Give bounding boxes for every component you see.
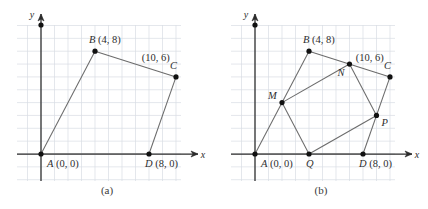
vertex-label-C: C <box>384 60 392 71</box>
vertex-label-B: B (4, 8) <box>89 34 121 46</box>
vertex-label-A: A (0, 0) <box>260 158 293 170</box>
vertex-point-M <box>279 100 284 105</box>
y-axis-marker-dot <box>252 22 257 27</box>
vertex-point-A <box>252 151 257 156</box>
vertex-point-B <box>306 49 311 54</box>
figure-container: xy(10, 6)A (0, 0)B (4, 8)CD (8, 0) (a) x… <box>0 0 428 209</box>
x-axis-label: x <box>200 149 206 160</box>
vertex-label-P: P <box>381 117 389 128</box>
vertex-point-P <box>374 113 379 118</box>
annotation-c-coordinates: (10, 6) <box>142 52 170 64</box>
y-axis-label: y <box>29 9 35 20</box>
panel-b: xy(10, 6)A (0, 0)B (4, 8)CD (8, 0)MNPQ (… <box>214 0 428 209</box>
y-axis-marker-dot <box>38 22 43 27</box>
annotation-c-coordinates: (10, 6) <box>356 52 384 64</box>
x-axis-label: x <box>414 149 420 160</box>
vertex-label-C: C <box>170 60 178 71</box>
vertex-point-D <box>360 151 365 156</box>
vertex-point-B <box>92 49 97 54</box>
panel-a-caption: (a) <box>0 184 214 196</box>
y-axis-label: y <box>243 9 249 20</box>
vertex-label-B: B (4, 8) <box>303 34 335 46</box>
vertex-point-A <box>38 151 43 156</box>
vertex-label-N: N <box>337 67 346 78</box>
vertex-point-Q <box>306 151 311 156</box>
vertex-label-M: M <box>267 90 278 101</box>
vertex-label-A: A (0, 0) <box>46 158 79 170</box>
coordinate-plane-a: xy(10, 6)A (0, 0)B (4, 8)CD (8, 0) <box>0 0 214 209</box>
vertex-label-D: D (8, 0) <box>358 158 392 170</box>
vertex-label-Q: Q <box>306 158 314 169</box>
vertex-point-N <box>347 61 352 66</box>
vertex-point-C <box>173 74 178 79</box>
panel-a: xy(10, 6)A (0, 0)B (4, 8)CD (8, 0) (a) <box>0 0 214 209</box>
vertex-label-D: D (8, 0) <box>144 158 178 170</box>
panel-b-caption: (b) <box>214 184 428 196</box>
vertex-point-C <box>387 74 392 79</box>
vertex-point-D <box>146 151 151 156</box>
edge-PQ <box>309 115 377 154</box>
coordinate-plane-b: xy(10, 6)A (0, 0)B (4, 8)CD (8, 0)MNPQ <box>214 0 428 209</box>
